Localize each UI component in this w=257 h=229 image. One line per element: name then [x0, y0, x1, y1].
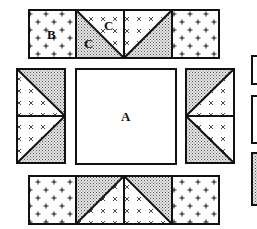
- label-b: B: [47, 27, 56, 42]
- bottom-strip: [29, 176, 219, 224]
- triangle-pair-right-2: [186, 116, 234, 163]
- triangle-pair-left-2: [17, 116, 65, 163]
- center-square-a: A: [76, 69, 176, 164]
- left-strip: [17, 69, 65, 163]
- triangle-pair-top-2: [124, 10, 172, 58]
- square-b-bottom-left: [29, 176, 76, 224]
- triangle-pair-right-1: [186, 69, 234, 116]
- right-strip: [186, 69, 234, 163]
- square-b-top-right: [172, 10, 219, 58]
- top-strip: B C C: [29, 10, 219, 58]
- swatch-shaded: [252, 153, 257, 205]
- triangle-pair-left-1: [17, 69, 65, 116]
- label-c-dark: C: [84, 36, 93, 51]
- triangle-pair-bottom-2: [124, 176, 172, 224]
- triangle-pair-bottom-1: [76, 176, 124, 224]
- quilt-diagram: B C C: [0, 0, 257, 229]
- swatch-outline-1: [252, 56, 257, 84]
- swatch-outline-2: [252, 96, 257, 143]
- label-c-light: C: [104, 18, 113, 33]
- label-a: A: [121, 109, 131, 124]
- legend-swatches: [252, 56, 257, 205]
- square-b-bottom-right: [172, 176, 219, 224]
